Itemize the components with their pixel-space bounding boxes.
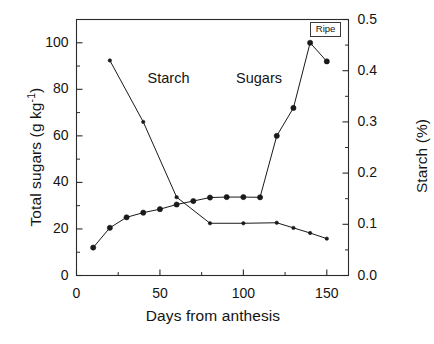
data-point-sugars-1 bbox=[107, 225, 112, 230]
y-axis-left-tick-label-1: 20 bbox=[25, 220, 69, 236]
series-label-starch: Starch bbox=[148, 70, 190, 86]
data-point-sugars-14 bbox=[324, 59, 329, 64]
x-axis-tick-label-2: 100 bbox=[218, 285, 268, 301]
y-axis-left-tick-label-5: 100 bbox=[25, 34, 69, 50]
y-axis-right-tick-label-4: 0.4 bbox=[358, 62, 398, 78]
x-axis-tick-label-3: 150 bbox=[302, 285, 352, 301]
data-point-sugars-13 bbox=[308, 40, 313, 45]
y-axis-right-tick-label-2: 0.2 bbox=[358, 164, 398, 180]
x-axis-tick-label-1: 50 bbox=[135, 285, 185, 301]
x-axis-title: Days from anthesis bbox=[77, 307, 349, 325]
data-point-sugars-7 bbox=[207, 195, 212, 200]
y-axis-right-title: Starch (%) bbox=[413, 56, 431, 256]
data-point-sugars-5 bbox=[174, 202, 179, 207]
data-point-sugars-8 bbox=[224, 194, 229, 199]
data-point-starch-0 bbox=[108, 59, 111, 62]
y-axis-right-tick-label-1: 0.1 bbox=[358, 215, 398, 231]
plot-frame bbox=[77, 20, 349, 276]
data-point-starch-2 bbox=[175, 195, 178, 198]
y-axis-left-tick-label-4: 80 bbox=[25, 80, 69, 96]
data-point-sugars-2 bbox=[124, 215, 129, 220]
data-point-sugars-6 bbox=[191, 198, 196, 203]
y-axis-left-title: Total sugars (g kg-1) bbox=[25, 37, 45, 277]
y-axis-left-title-text: Total sugars (g kg bbox=[27, 102, 44, 226]
data-point-sugars-3 bbox=[141, 210, 146, 215]
x-axis-tick-label-0: 0 bbox=[52, 285, 102, 301]
data-point-starch-6 bbox=[292, 226, 295, 229]
y-axis-right-tick-label-3: 0.3 bbox=[358, 113, 398, 129]
series-label-sugars: Sugars bbox=[236, 70, 282, 86]
data-point-starch-7 bbox=[308, 231, 311, 234]
data-point-starch-3 bbox=[208, 222, 211, 225]
data-point-sugars-9 bbox=[241, 194, 246, 199]
ripe-stage-label: Ripe bbox=[310, 22, 342, 37]
y-axis-left-tick-label-0: 0 bbox=[25, 267, 69, 283]
chart-figure: Total sugars (g kg-1) Starch (%) Days fr… bbox=[0, 0, 434, 344]
data-point-sugars-10 bbox=[257, 195, 262, 200]
data-point-sugars-12 bbox=[291, 105, 296, 110]
data-point-sugars-4 bbox=[157, 207, 162, 212]
data-point-starch-1 bbox=[142, 120, 145, 123]
data-point-starch-4 bbox=[242, 222, 245, 225]
data-point-sugars-0 bbox=[91, 245, 96, 250]
data-point-starch-5 bbox=[275, 221, 278, 224]
y-axis-left-tick-label-3: 60 bbox=[25, 127, 69, 143]
data-point-sugars-11 bbox=[274, 133, 279, 138]
data-point-starch-8 bbox=[325, 237, 328, 240]
y-axis-right-tick-label-5: 0.5 bbox=[358, 11, 398, 27]
y-axis-left-tick-label-2: 40 bbox=[25, 173, 69, 189]
y-axis-right-tick-label-0: 0.0 bbox=[358, 267, 398, 283]
